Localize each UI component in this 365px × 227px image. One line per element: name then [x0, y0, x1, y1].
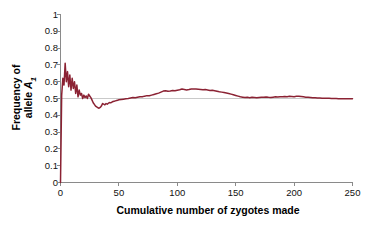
- data-series-line: [61, 63, 353, 182]
- y-axis-ticks: [57, 15, 61, 183]
- plot-area: [0, 0, 365, 227]
- x-axis-ticks: [61, 183, 353, 187]
- x-axis-title: Cumulative number of zygotes made: [60, 204, 356, 216]
- chart-figure: Frequency of allele A1 00.10.20.30.40.50…: [0, 0, 365, 227]
